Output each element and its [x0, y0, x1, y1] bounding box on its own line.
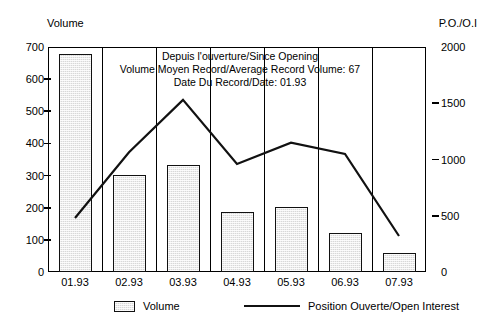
- x-tick-label-06.93: 06.93: [331, 276, 359, 289]
- right-tick-label: 1000: [441, 154, 465, 165]
- left-tick-label: 100: [6, 234, 44, 245]
- open-interest-polyline: [75, 100, 399, 236]
- left-axis-caption: Volume: [47, 17, 84, 29]
- annotation-line-2: Volume Moyen Record/Average Record Volum…: [110, 63, 370, 76]
- x-tick-label-02.93: 02.93: [115, 276, 143, 289]
- annotation-line-3: Date Du Record/Date: 01.93: [110, 76, 370, 89]
- left-tick-label: 300: [6, 170, 44, 181]
- x-axis-tick-labels: 01.9302.9303.9304.9305.9306.9307.93: [48, 276, 426, 292]
- x-tick-label-04.93: 04.93: [223, 276, 251, 289]
- x-tick-label-05.93: 05.93: [277, 276, 305, 289]
- left-tick-label: 0: [6, 267, 44, 278]
- right-tick-label: 0: [441, 267, 447, 278]
- left-tick-label: 600: [6, 74, 44, 85]
- right-tick-label: 2000: [441, 42, 465, 53]
- x-tick-label-03.93: 03.93: [169, 276, 197, 289]
- right-tick-mark: [432, 159, 439, 161]
- left-tick-label: 200: [6, 202, 44, 213]
- left-tick-label: 500: [6, 106, 44, 117]
- legend-label-volume: Volume: [143, 300, 180, 312]
- x-tick-label-07.93: 07.93: [385, 276, 413, 289]
- chart-legend: Volume Position Ouverte/Open Interest: [48, 300, 448, 318]
- right-axis-caption: P.O./O.I: [439, 17, 477, 29]
- chart-root: Volume P.O./O.I 0100200300400500600700 0…: [0, 0, 483, 326]
- x-tick-label-01.93: 01.93: [61, 276, 89, 289]
- right-tick-label: 500: [441, 210, 459, 221]
- left-tick-label: 400: [6, 138, 44, 149]
- legend-item-volume: Volume: [114, 300, 180, 312]
- annotation-line-1: Depuis l'ouverture/Since Opening: [110, 50, 370, 63]
- legend-item-open-interest: Position Ouverte/Open Interest: [244, 300, 459, 312]
- right-tick-mark: [432, 215, 439, 217]
- open-interest-swatch-icon: [244, 305, 300, 307]
- legend-label-open-interest: Position Ouverte/Open Interest: [308, 300, 459, 312]
- volume-swatch-icon: [114, 301, 135, 312]
- right-tick-label: 1500: [441, 98, 465, 109]
- right-tick-mark: [432, 102, 439, 104]
- left-tick-label: 700: [6, 42, 44, 53]
- right-axis-ticks: 0500100015002000: [432, 47, 480, 272]
- record-annotation-block: Depuis l'ouverture/Since Opening Volume …: [110, 50, 370, 89]
- left-axis-ticks: 0100200300400500600700: [0, 47, 44, 272]
